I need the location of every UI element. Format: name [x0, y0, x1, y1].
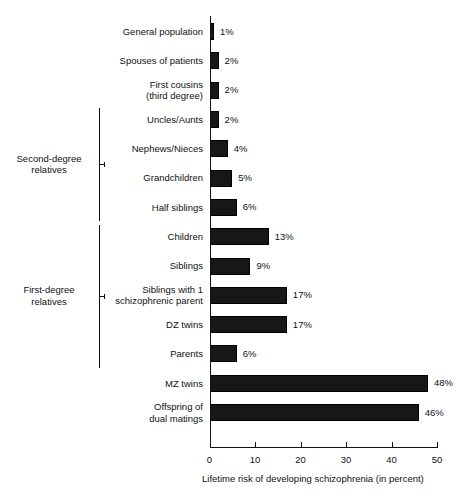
category-label-line: DZ twins [53, 319, 203, 330]
bar-value-label: 6% [243, 201, 257, 212]
category-label-line: (third degree) [53, 90, 203, 101]
category-label-line: schizophrenic parent [53, 295, 203, 306]
bar [210, 228, 269, 245]
axis-left-cap [210, 16, 211, 447]
category-label-line: Offspring of [53, 401, 203, 412]
axis-tick [392, 442, 393, 447]
category-label-line: Siblings [53, 260, 203, 271]
category-label: Offspring ofdual matings [53, 401, 203, 424]
axis-line [210, 447, 439, 448]
bar [210, 404, 419, 421]
bar [210, 287, 287, 304]
bar-row: DZ twins17% [0, 311, 463, 340]
x-axis-title: Lifetime risk of developing schizophreni… [202, 473, 424, 485]
bar-value-label: 13% [275, 231, 294, 242]
category-label-line: Nephews/Nieces [53, 143, 203, 154]
category-label: Grandchildren [53, 172, 203, 183]
category-label-line: dual matings [53, 413, 203, 424]
category-label-line: Siblings with 1 [53, 284, 203, 295]
bar [210, 111, 219, 128]
axis-tick [346, 442, 347, 447]
bar-row: Offspring ofdual matings46% [0, 399, 463, 428]
category-label: Half siblings [53, 202, 203, 213]
bar-row: MZ twins48% [0, 370, 463, 399]
category-label: First cousins(third degree) [53, 79, 203, 102]
bar [210, 170, 233, 187]
category-label: Uncles/Aunts [53, 114, 203, 125]
bar-value-label: 46% [425, 407, 444, 418]
category-label-line: General population [53, 26, 203, 37]
bar [210, 140, 228, 157]
category-label-line: Grandchildren [53, 172, 203, 183]
axis-tick-label: 40 [377, 454, 407, 465]
bar [210, 258, 251, 275]
bar-value-label: 4% [234, 143, 248, 154]
category-label-line: Half siblings [53, 202, 203, 213]
category-label: Siblings with 1schizophrenic parent [53, 284, 203, 307]
category-label: Spouses of patients [53, 55, 203, 66]
bar-row: General population1% [0, 18, 463, 47]
bar-value-label: 17% [293, 319, 312, 330]
bar-row: Uncles/Aunts2% [0, 106, 463, 135]
axis-tick-label: 30 [331, 454, 361, 465]
category-label-line: Spouses of patients [53, 55, 203, 66]
category-label: MZ twins [53, 378, 203, 389]
bar [210, 199, 237, 216]
bar-value-label: 6% [243, 348, 257, 359]
bar-row: Nephews/Nieces4% [0, 135, 463, 164]
bar [210, 316, 287, 333]
bar-row: Spouses of patients2% [0, 47, 463, 76]
category-label-line: Uncles/Aunts [53, 114, 203, 125]
bar [210, 52, 219, 69]
bar-row: Half siblings6% [0, 194, 463, 223]
schizophrenia-risk-bar-chart: Second-degreerelativesFirst-degreerelati… [0, 0, 463, 501]
category-label-line: First cousins [53, 79, 203, 90]
bar-row: Parents6% [0, 340, 463, 369]
category-label-line: Children [53, 231, 203, 242]
category-label-line: Parents [53, 348, 203, 359]
bar-value-label: 5% [238, 172, 252, 183]
category-label-line: MZ twins [53, 378, 203, 389]
bar-row: Siblings with 1schizophrenic parent17% [0, 282, 463, 311]
category-label: Nephews/Nieces [53, 143, 203, 154]
axis-tick [301, 442, 302, 447]
category-label: Siblings [53, 260, 203, 271]
bar-row: First cousins(third degree)2% [0, 77, 463, 106]
bar-value-label: 1% [220, 26, 234, 37]
axis-tick [437, 442, 438, 447]
category-label: DZ twins [53, 319, 203, 330]
category-label: Children [53, 231, 203, 242]
bar-row: Siblings9% [0, 252, 463, 281]
bar-value-label: 48% [434, 377, 453, 388]
category-label: Parents [53, 348, 203, 359]
bar-value-label: 17% [293, 289, 312, 300]
bar-value-label: 2% [225, 114, 239, 125]
bar [210, 345, 237, 362]
bar-row: Children13% [0, 223, 463, 252]
bar [210, 375, 428, 392]
bar-value-label: 2% [225, 84, 239, 95]
bar-value-label: 2% [225, 55, 239, 66]
axis-tick-label: 0 [195, 454, 225, 465]
axis-tick-label: 50 [422, 454, 452, 465]
axis-tick [255, 442, 256, 447]
bar-row: Grandchildren5% [0, 165, 463, 194]
category-label: General population [53, 26, 203, 37]
axis-tick-label: 10 [240, 454, 270, 465]
bar-value-label: 9% [256, 260, 270, 271]
axis-tick-label: 20 [286, 454, 316, 465]
bar [210, 82, 219, 99]
